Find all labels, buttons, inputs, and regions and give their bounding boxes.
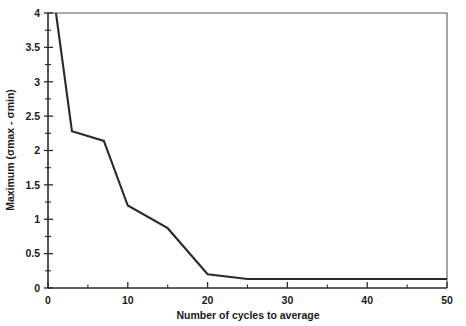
chart-container: 01020304050 00.511.522.533.54 Number of … (0, 0, 466, 326)
y-tick-label: 2 (34, 144, 40, 156)
y-tick-label: 1 (34, 213, 40, 225)
x-axis-title: Number of cycles to average (177, 309, 320, 321)
x-tick-label: 30 (282, 294, 294, 306)
y-axis-title: Maximum (σmax - σmin) (4, 89, 16, 211)
y-tick-label: 0 (34, 282, 40, 294)
x-tick-label: 0 (45, 294, 51, 306)
x-tick-label: 40 (361, 294, 373, 306)
chart-plot: 01020304050 00.511.522.533.54 Number of … (0, 0, 466, 326)
y-tick-label: 4 (34, 7, 40, 19)
x-tick-label: 20 (202, 294, 214, 306)
y-tick-label: 3 (34, 76, 40, 88)
x-tick-label: 10 (122, 294, 134, 306)
y-tick-label: 0.5 (25, 247, 40, 259)
y-tick-label: 1.5 (25, 179, 40, 191)
y-tick-label: 3.5 (25, 41, 40, 53)
x-tick-label: 50 (441, 294, 453, 306)
y-tick-label: 2.5 (25, 110, 40, 122)
